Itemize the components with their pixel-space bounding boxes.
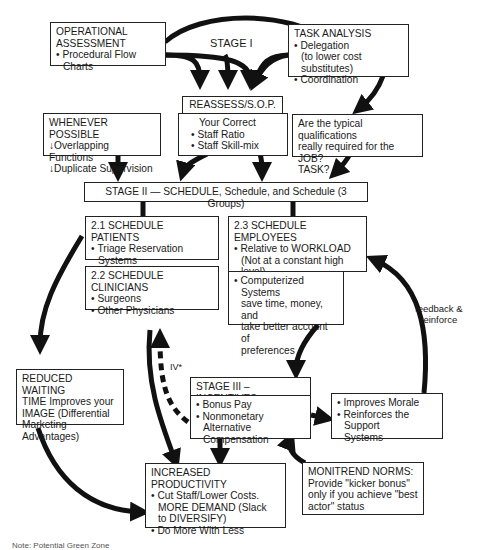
computerized-cont2: take better account of [234,321,338,344]
reduced-waiting-line1: REDUCED WAITING [22,373,118,396]
task-bullet-coordination: Coordination [294,74,403,86]
incentives-bullet-bonus: Bonus Pay [196,399,305,411]
reassess-bullet-ratio: Staff Ratio [191,129,282,141]
stage-i-label: STAGE I [210,38,253,50]
footnote: Note: Potential Green Zone [12,541,109,550]
patients-bullet: Triage Reservation [91,243,213,255]
monitrend-line1: MONITREND NORMS: [308,466,418,478]
reduced-waiting-line4: Marketing Advantages) [22,419,118,442]
qualifications-line2: really required for the JOB? [298,141,417,164]
monitrend-line4: actor" status [308,501,418,513]
incentives-bullet-nonmonetary: Nonmonetary [196,411,305,423]
stage-ii-box: STAGE II — SCHEDULE, Schedule, and Sched… [84,182,368,202]
reassess-title: REASSESS/S.O.P. [186,99,279,111]
task-analysis-title: TASK ANALYSIS [294,28,403,40]
productivity-bullet1-cont1: MORE DEMAND (Slack [151,502,280,514]
monitrend-box: MONITREND NORMS: Provide "kicker bonus" … [302,462,424,515]
qualifications-line3: TASK? [298,164,417,176]
computerized-bullet: Computerized Systems [234,275,338,298]
reassess-bullet-skillmix: Staff Skill-mix [191,140,282,152]
monitrend-line3: only if you achieve "best [308,489,418,501]
clinicians-bullet-physicians: Other Physicians [91,305,213,317]
stage-iii-title-box: STAGE III – INCENTIVES [190,377,311,396]
schedule-patients-box: 2.1 SCHEDULE PATIENTS Triage Reservation… [85,216,219,260]
morale-bullet1: Improves Morale [337,397,437,409]
patients-title: 2.1 SCHEDULE PATIENTS [91,220,213,243]
operational-bullet: Procedural Flow Charts [56,49,160,72]
operational-assessment-box: OPERATIONAL ASSESSMENT Procedural Flow C… [50,22,166,66]
reassess-body-box: Your Correct Staff Ratio Staff Skill-mix [178,113,288,156]
feedback-line2: reinforce [415,314,463,325]
patients-bullet-cont: Systems [91,255,213,267]
whenever-item-duplicate: ↓Duplicate Supervision [49,163,155,175]
feedback-label: feedback & reinforce [415,303,463,325]
qualifications-line1: Are the typical qualifications [298,118,417,141]
operational-title-2: ASSESSMENT [56,38,160,50]
schedule-clinicians-box: 2.2 SCHEDULE CLINICIANS Surgeons Other P… [85,266,219,310]
productivity-bullet1-cont2: to DIVERSIFY) [151,513,280,525]
task-bullet-delegation: Delegation [294,40,403,52]
morale-bullet2: Reinforces the Support [337,409,437,432]
employees-bullet: Relative to WORKLOAD [234,243,361,255]
stage-iii-body-box: Bonus Pay Nonmonetary Alternative Compen… [190,395,311,439]
stage-ii-title: STAGE II — SCHEDULE, Schedule, and Sched… [89,186,363,209]
incentives-bullet-nonmonetary-cont: Alternative Compensation [196,422,305,445]
morale-box: Improves Morale Reinforces the Support S… [331,393,443,439]
computerized-cont1: save time, money, and [234,298,338,321]
clinicians-bullet-surgeons: Surgeons [91,293,213,305]
reduced-waiting-line2: TIME Improves your [22,396,118,408]
increased-productivity-box: INCREASED PRODUCTIVITY Cut Staff/Lower C… [145,463,286,528]
task-analysis-box: TASK ANALYSIS Delegation (to lower cost … [288,24,409,77]
computerized-systems-box: Computerized Systems save time, money, a… [228,271,344,325]
morale-bullet2-cont: Systems [337,432,437,444]
task-bullet-delegation-sub: (to lower cost substitutes) [294,51,403,74]
schedule-employees-box: 2.3 SCHEDULE EMPLOYEES Relative to WORKL… [228,216,367,272]
productivity-title: INCREASED PRODUCTIVITY [151,467,280,490]
operational-title-1: OPERATIONAL [56,26,160,38]
whenever-item-overlapping: ↓Overlapping Functions [49,140,155,163]
employees-title: 2.3 SCHEDULE EMPLOYEES [234,220,361,243]
reduced-waiting-box: REDUCED WAITING TIME Improves your IMAGE… [16,369,124,425]
monitrend-line2: Provide "kicker bonus" [308,478,418,490]
reassess-title-box: REASSESS/S.O.P. [182,96,283,114]
computerized-cont3: preferences [234,345,338,357]
productivity-bullet1: Cut Staff/Lower Costs. [151,490,280,502]
whenever-title: WHENEVER POSSIBLE [49,117,155,140]
whenever-possible-box: WHENEVER POSSIBLE ↓Overlapping Functions… [43,113,161,156]
productivity-bullet2: Do More With Less [151,525,280,537]
reassess-intro: Your Correct [191,117,282,129]
iv-label: IV* [170,362,182,374]
employees-cont1: (Not at a constant high [234,255,361,267]
reduced-waiting-line3: IMAGE (Differential [22,408,118,420]
clinicians-title: 2.2 SCHEDULE CLINICIANS [91,270,213,293]
feedback-line1: feedback & [415,303,463,314]
qualifications-box: Are the typical qualifications really re… [292,114,423,157]
